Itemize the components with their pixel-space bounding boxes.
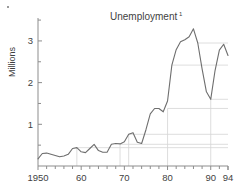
x-tick-label: 94 xyxy=(223,172,234,183)
axes xyxy=(38,18,228,166)
chart-canvas: 123 19506070809094 Millions Unemployment… xyxy=(0,0,237,190)
y-tick-label: 1 xyxy=(28,119,33,130)
unemployment-series-line xyxy=(38,29,228,159)
y-tick-label: 2 xyxy=(28,77,33,88)
y-axis-title: Millions xyxy=(7,47,17,78)
chart-title-text: Unemployment xyxy=(110,11,177,22)
y-axis-tick-labels: 123 xyxy=(28,35,33,129)
x-tick-label: 60 xyxy=(76,172,87,183)
x-tick-label: 80 xyxy=(162,172,173,183)
y-axis-ticks xyxy=(38,20,42,145)
unemployment-chart: 123 19506070809094 Millions Unemployment… xyxy=(0,0,237,190)
x-tick-label: 70 xyxy=(119,172,130,183)
x-tick-label: 1950 xyxy=(27,172,48,183)
scan-speck-artifact xyxy=(7,6,9,8)
y-tick-label: 3 xyxy=(28,35,33,46)
reference-gridlines xyxy=(77,43,228,148)
chart-title-footnote-marker: 1 xyxy=(177,11,183,17)
x-tick-label: 90 xyxy=(205,172,216,183)
x-axis-ticks xyxy=(38,166,228,170)
chart-title: Unemployment 1 xyxy=(110,11,183,22)
x-axis-tick-labels: 19506070809094 xyxy=(27,172,233,183)
drop-lines xyxy=(77,99,211,166)
